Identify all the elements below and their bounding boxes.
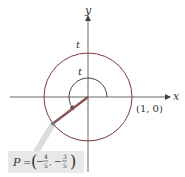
svg-text:5: 5 xyxy=(44,162,48,169)
angle-arc-label: t xyxy=(78,66,83,77)
y-axis-label: y xyxy=(84,4,92,17)
leader-line xyxy=(36,124,53,152)
point-1-0 xyxy=(131,96,133,98)
point-P xyxy=(51,122,55,126)
circle-arc-label: t xyxy=(76,39,81,50)
x-axis-label: x xyxy=(173,90,180,103)
svg-text:4: 4 xyxy=(44,153,48,160)
svg-text:3: 3 xyxy=(63,153,67,160)
svg-text:5: 5 xyxy=(63,162,67,169)
point-1-0-label: (1, 0) xyxy=(136,103,163,114)
point-P-label: P = ( − 4 5 , − 3 5 ) xyxy=(8,151,84,173)
radius-line xyxy=(53,97,88,124)
svg-text:−: − xyxy=(36,156,44,166)
svg-text:,: , xyxy=(49,158,52,167)
svg-text:): ) xyxy=(70,152,76,171)
unit-circle-diagram: y x t t (1, 0) P = ( − 4 5 , − 3 5 ) xyxy=(0,0,185,177)
svg-text:P: P xyxy=(12,156,21,169)
svg-text:−: − xyxy=(54,156,62,166)
